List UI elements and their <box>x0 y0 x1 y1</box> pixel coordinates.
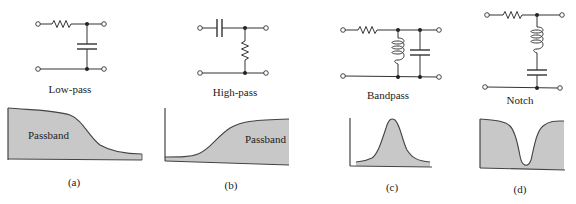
output-terminal-bottom <box>558 86 563 91</box>
output-terminal-top <box>102 22 107 27</box>
input-terminal-top <box>36 22 41 27</box>
output-terminal-bottom <box>437 75 442 80</box>
input-terminal-bottom <box>483 85 488 90</box>
output-terminal-top <box>437 28 442 33</box>
panel-label-a: (a) <box>68 176 81 189</box>
output-terminal-bottom <box>264 71 269 76</box>
input-terminal-top <box>198 26 203 31</box>
circuit-label-bandpass: Bandpass <box>367 89 409 101</box>
passband-label: Passband <box>245 133 286 145</box>
panel-label-d: (d) <box>514 183 527 196</box>
output-terminal-top <box>264 26 269 31</box>
capacitor-icon <box>410 50 430 55</box>
capacitor-icon <box>77 44 97 49</box>
high-pass-circuit <box>198 19 269 75</box>
resistor-icon <box>242 41 249 60</box>
panel-d: Notch (d) <box>480 12 565 197</box>
resistor-icon <box>503 12 522 19</box>
panel-b: High-pass Passband (b) <box>165 19 289 192</box>
input-terminal-bottom <box>341 74 346 79</box>
notch-circuit <box>483 12 565 91</box>
low-pass-circuit <box>36 21 107 72</box>
circuit-label-low-pass: Low-pass <box>49 83 92 95</box>
junction-dot <box>418 75 422 79</box>
panel-label-b: (b) <box>225 179 238 192</box>
junction-dot <box>85 67 89 71</box>
inductor-icon <box>392 38 404 64</box>
junction-dot <box>396 75 400 79</box>
output-terminal-bottom <box>102 67 107 72</box>
input-terminal-bottom <box>36 67 41 72</box>
capacitor-icon <box>217 19 222 37</box>
panel-label-c: (c) <box>386 181 399 194</box>
circuit-label-high-pass: High-pass <box>213 86 258 98</box>
bandpass-response-curve <box>350 118 432 167</box>
resistor-icon <box>52 21 71 28</box>
junction-dot <box>535 86 539 90</box>
junction-dot <box>243 71 247 75</box>
input-terminal-top <box>485 13 490 18</box>
circuit-label-notch: Notch <box>507 94 534 106</box>
passband-label: Passband <box>28 129 69 141</box>
panel-c: Bandpass (c) <box>341 27 442 195</box>
bandpass-circuit <box>341 27 442 80</box>
inductor-icon <box>531 27 543 53</box>
filter-types-diagram: Low-pass Passband (a) <box>0 0 576 204</box>
input-terminal-bottom <box>198 71 203 76</box>
resistor-icon <box>358 27 377 34</box>
capacitor-icon <box>527 70 547 75</box>
notch-response-curve <box>480 119 565 170</box>
output-terminal-top <box>560 13 565 18</box>
input-terminal-top <box>341 28 346 33</box>
panel-a: Low-pass Passband (a) <box>8 21 142 190</box>
